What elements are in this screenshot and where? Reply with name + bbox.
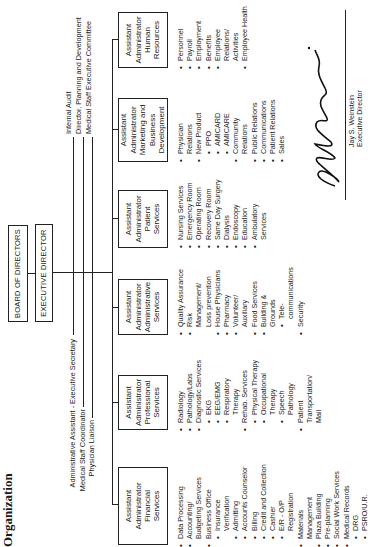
- board-label: BOARD OF DIRECTORS: [13, 229, 22, 318]
- list-item: E/R - O/P: [277, 464, 286, 547]
- list-item: Ambulatory: [250, 179, 259, 248]
- executive-label: EXECUTIVE DIRECTOR: [39, 229, 48, 316]
- list-item: Nursing Services: [176, 179, 185, 248]
- box-line: Human: [143, 16, 152, 63]
- list-item: Billing: [250, 464, 259, 547]
- list-item: Respiratory: [222, 360, 231, 431]
- list-item: Pre-planning: [323, 464, 332, 547]
- box-line: Services: [152, 195, 161, 242]
- box-line: Services: [152, 379, 161, 426]
- staff-right-2: Director, Planning and Development: [74, 17, 84, 134]
- list-item: EEG/EMG: [213, 360, 222, 431]
- list-item: Cashier: [268, 464, 277, 547]
- list-item: Pathology/Labs: [185, 360, 194, 431]
- executive-director-box: EXECUTIVE DIRECTOR: [35, 224, 53, 322]
- box-line: Assistant: [124, 482, 133, 529]
- list-item: Budgeting Services: [194, 464, 203, 547]
- box-line: Administrator: [134, 482, 143, 529]
- list-item: Payroll: [185, 6, 194, 69]
- list-item: Diagnostic Services: [194, 360, 203, 431]
- box-line: Services: [152, 282, 161, 332]
- list-item: communications: [286, 267, 295, 335]
- dept-box-human-resources: Assistant Administrator Human Resources: [118, 12, 168, 68]
- page-title: Organization: [0, 473, 16, 547]
- list-item: Pathology: [286, 360, 295, 431]
- list-item: Transportation/: [305, 360, 314, 431]
- dept-box-professional: Assistant Administrator Professional Ser…: [118, 375, 168, 430]
- box-line: Assistant: [119, 105, 128, 156]
- list-item: AMICARD: [213, 100, 222, 162]
- box-line: Administrator: [134, 195, 143, 242]
- list-item: Education: [240, 179, 249, 248]
- board-of-directors-box: BOARD OF DIRECTORS: [8, 225, 28, 322]
- list-item: Credit and Collection: [259, 464, 268, 547]
- list-item: Rehab. Services: [240, 360, 249, 431]
- dept-box-administrative: Assistant Administrator Administrative S…: [118, 279, 168, 335]
- list-item: AMICARE: [222, 100, 231, 162]
- list-item: Employee: [213, 6, 222, 69]
- staff-right-1: Internal Audit: [64, 91, 74, 134]
- list-item: Verification: [222, 464, 231, 547]
- list-item: Physician: [176, 100, 185, 162]
- list-item: Management: [305, 464, 314, 547]
- signature-scribble-icon: [305, 42, 345, 192]
- box-line: Patient: [143, 195, 152, 242]
- list-item: Therapy: [231, 360, 240, 431]
- list-item: Patient Relations: [268, 100, 277, 162]
- list-item: PSRO/U.R.: [360, 464, 369, 547]
- org-chart: Organization BOARD OF DIRECTORS EXECUTIV…: [0, 0, 370, 547]
- list-item: Patient: [296, 360, 305, 431]
- list-item: Tele-: [277, 267, 286, 335]
- list-item: Radiology: [176, 360, 185, 431]
- list-item: Endoscopy: [231, 179, 240, 248]
- list-item: Plaza Building: [314, 464, 323, 547]
- list-item: Grounds: [268, 267, 277, 335]
- list-item: Therapy: [268, 360, 277, 431]
- list-item: Employee Health: [240, 6, 249, 69]
- list-patient: Nursing ServicesEmergency RoomOperating …: [176, 179, 268, 248]
- staff-line-2: [83, 137, 84, 407]
- list-item: Activities: [231, 6, 240, 69]
- list-item: Public Relations: [250, 100, 259, 162]
- list-item: Loss prevention: [204, 267, 213, 335]
- list-item: Registration: [286, 464, 295, 547]
- list-item: Relations: [240, 100, 249, 162]
- box-line: Assistant: [124, 379, 133, 426]
- box-line: Assistant: [124, 16, 133, 63]
- box-line: Administrative: [143, 282, 152, 332]
- list-item: Occupational: [259, 360, 268, 431]
- list-item: Emergency Room: [185, 179, 194, 248]
- list-administrative: Quality AssuranceRiskManagement/Loss pre…: [176, 267, 305, 335]
- box-line: Administrator: [134, 282, 143, 332]
- list-item: PPO: [204, 100, 213, 162]
- staff-right-3: Medical Staff Executive Committee: [84, 21, 94, 134]
- list-item: Communications: [259, 100, 268, 162]
- list-item: Services: [259, 179, 268, 248]
- list-item: Personnel: [176, 6, 185, 69]
- list-item: Pharmacy: [222, 267, 231, 335]
- list-item: Relations/: [222, 6, 231, 69]
- list-item: Sales: [277, 100, 286, 162]
- list-professional: RadiologyPathology/LabsDiagnostic Servic…: [176, 360, 323, 431]
- list-item: House Physicians: [213, 267, 222, 335]
- list-item: Management/: [194, 267, 203, 335]
- staff-left-3: Physician Liaison: [87, 420, 97, 476]
- list-item: Volunteer/: [231, 267, 240, 335]
- box-line: Administrator: [134, 379, 143, 426]
- list-item: Quality Assurance: [176, 267, 185, 335]
- list-item: EKG: [204, 360, 213, 431]
- list-item: Operating Room: [194, 179, 203, 248]
- list-item: Recovery Room: [204, 179, 213, 248]
- list-item: New Product: [194, 100, 203, 162]
- box-line: Professional: [143, 379, 152, 426]
- department-bus-line: [112, 39, 113, 505]
- board-exec-connector: [28, 273, 35, 274]
- list-item: Same Day Surgery: [213, 179, 222, 248]
- list-item: Mail: [314, 360, 323, 431]
- list-item: Admitting: [231, 464, 240, 547]
- staff-line-3: [92, 137, 93, 418]
- list-item: Business Office: [204, 464, 213, 547]
- signature-line: [345, 10, 346, 200]
- list-item: Social Work Services: [332, 464, 341, 547]
- list-item: Risk: [185, 267, 194, 335]
